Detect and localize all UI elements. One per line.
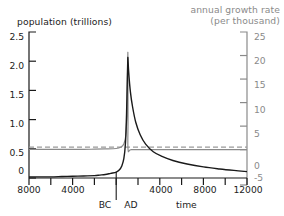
right-axis-ticks [240,56,247,185]
left-axis-spine [29,32,36,178]
left-axis-ticks [29,61,36,178]
population-curve [29,57,247,176]
plot-canvas [0,0,284,216]
x-axis-ticks [29,178,247,185]
population-growth-chart: population (trillions) annual growth rat… [0,0,284,216]
growth-rate-curve [29,52,247,151]
